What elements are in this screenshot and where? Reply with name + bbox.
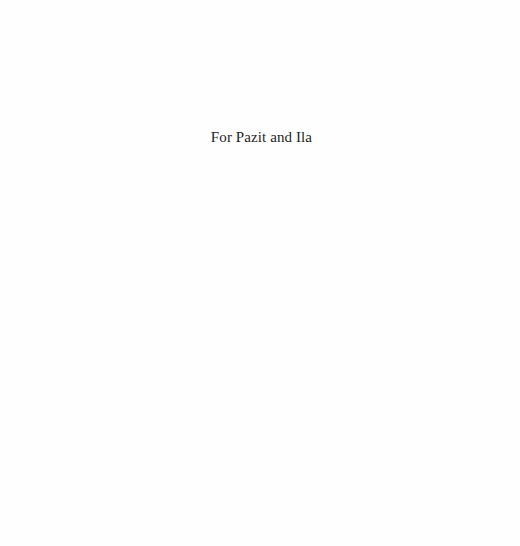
dedication-text: For Pazit and Ila <box>0 129 520 146</box>
book-page: For Pazit and Ila <box>0 0 520 546</box>
